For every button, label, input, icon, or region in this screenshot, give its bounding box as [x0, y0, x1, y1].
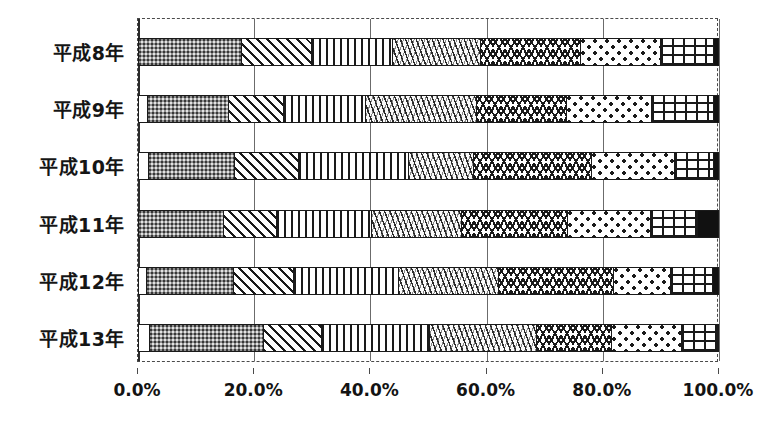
bar-segment-series-4 [322, 325, 430, 351]
bar-segment-series-8 [682, 325, 718, 351]
bar-segment-series-5 [372, 211, 462, 237]
bar-3 [138, 152, 719, 180]
x-tickmark-3 [486, 368, 487, 374]
bar-segment-series-4 [299, 153, 408, 179]
gridline [603, 19, 604, 361]
bar-segment-series-3 [234, 268, 293, 294]
bar-segment-series-7 [592, 153, 675, 179]
x-tick-label-1: 20.0% [224, 380, 283, 400]
bar-segment-series-2 [148, 96, 229, 122]
bar-segment-series-4 [294, 268, 400, 294]
value-axis-line [138, 19, 140, 361]
bar-segment-series-5 [409, 153, 474, 179]
bar-segment-series-9 [713, 268, 719, 294]
gridline [370, 19, 371, 361]
bar-segment-series-6 [477, 96, 567, 122]
bar-segment-series-7 [581, 39, 661, 65]
bar-segment-series-1 [139, 153, 149, 179]
bar-segment-series-4 [284, 96, 366, 122]
bar-segment-series-3 [235, 153, 299, 179]
bar-segment-series-2 [149, 153, 236, 179]
x-tick-label-5: 100.0% [683, 380, 754, 400]
bar-segment-series-5 [399, 268, 499, 294]
bar-segment-series-6 [474, 153, 592, 179]
bar-segment-series-6 [537, 325, 612, 351]
category-label-6: 平成13年 [39, 324, 125, 351]
gridline [719, 19, 720, 361]
bar-segment-series-6 [481, 39, 581, 65]
bar-segment-series-2 [139, 39, 242, 65]
bar-segment-series-5 [366, 96, 477, 122]
bar-segment-series-8 [661, 39, 713, 65]
category-label-2: 平成9年 [53, 95, 125, 122]
bar-6 [138, 324, 719, 352]
x-tickmark-5 [718, 368, 719, 374]
bar-segment-series-8 [652, 96, 714, 122]
bar-segment-series-3 [242, 39, 312, 65]
gridline [254, 19, 255, 361]
bar-segment-series-4 [277, 211, 372, 237]
category-label-1: 平成8年 [53, 37, 125, 64]
x-tickmark-2 [369, 368, 370, 374]
bar-segment-series-2 [147, 268, 234, 294]
bar-segment-series-7 [567, 96, 652, 122]
bar-segment-series-8 [675, 153, 715, 179]
bar-segment-series-9 [714, 96, 719, 122]
bar-segment-series-1 [139, 96, 148, 122]
bar-segment-series-2 [150, 325, 264, 351]
bar-segment-series-7 [614, 268, 671, 294]
bar-segment-series-1 [139, 268, 147, 294]
value-axis-labels: 0.0%20.0%40.0%60.0%80.0%100.0% [0, 368, 770, 398]
stacked-bar-chart: 平成8年平成9年平成10年平成11年平成12年平成13年 0.0%20.0%40… [0, 0, 770, 432]
bar-segment-series-8 [671, 268, 713, 294]
bar-segment-series-3 [224, 211, 277, 237]
x-tick-label-2: 40.0% [340, 380, 399, 400]
x-tick-label-3: 60.0% [456, 380, 515, 400]
bar-segment-series-9 [714, 39, 719, 65]
category-label-3: 平成10年 [39, 152, 125, 179]
bar-segment-series-9 [698, 211, 719, 237]
bar-segment-series-4 [312, 39, 394, 65]
category-label-4: 平成11年 [39, 209, 125, 236]
bar-segment-series-2 [139, 211, 224, 237]
category-label-5: 平成12年 [39, 267, 125, 294]
x-tickmark-4 [602, 368, 603, 374]
x-tick-label-0: 0.0% [113, 380, 160, 400]
bar-segment-series-5 [430, 325, 537, 351]
bar-4 [138, 210, 719, 238]
x-tick-label-4: 80.0% [572, 380, 631, 400]
bar-1 [138, 38, 719, 66]
bar-2 [138, 95, 719, 123]
plot-area [137, 18, 718, 362]
category-axis-labels: 平成8年平成9年平成10年平成11年平成12年平成13年 [0, 0, 131, 362]
bar-segment-series-7 [612, 325, 682, 351]
bar-5 [138, 267, 719, 295]
bar-segment-series-3 [264, 325, 322, 351]
x-tickmark-1 [253, 368, 254, 374]
bar-segment-series-9 [718, 325, 719, 351]
bar-segment-series-7 [568, 211, 651, 237]
bar-segment-series-9 [714, 153, 719, 179]
bar-segment-series-5 [393, 39, 481, 65]
bar-segment-series-6 [499, 268, 614, 294]
bar-segment-series-6 [462, 211, 568, 237]
bar-segment-series-3 [229, 96, 284, 122]
bar-segment-series-8 [651, 211, 699, 237]
gridline [487, 19, 488, 361]
bar-segment-series-1 [139, 325, 150, 351]
x-tickmark-0 [137, 368, 138, 374]
